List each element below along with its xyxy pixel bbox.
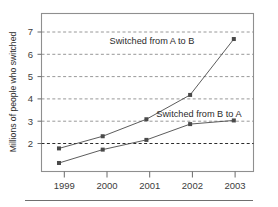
data-point-marker — [144, 138, 148, 142]
data-point-marker — [144, 117, 148, 121]
ytick-label-6: 6 — [28, 49, 33, 60]
data-point-marker — [101, 148, 105, 152]
xtick-label-2002: 2002 — [182, 180, 203, 191]
xtick-label-2003: 2003 — [225, 180, 246, 191]
data-point-marker — [57, 161, 61, 165]
ytick-label-4: 4 — [28, 93, 33, 104]
xtick-label-2000: 2000 — [96, 180, 117, 191]
data-point-marker — [232, 118, 236, 122]
annotation-b-to-a: Switched from B to A — [156, 109, 242, 119]
xtick-label-2001: 2001 — [139, 180, 160, 191]
data-point-marker — [101, 134, 105, 138]
y-axis-title: Millions of people who switched — [8, 32, 18, 153]
ytick-label-2: 2 — [28, 138, 33, 149]
chart-figure: 7 6 5 4 3 2 Millions of people who switc… — [0, 0, 278, 207]
ytick-label-5: 5 — [28, 71, 33, 82]
xtick-label-1999: 1999 — [54, 180, 75, 191]
ytick-label-7: 7 — [28, 26, 33, 37]
data-point-marker — [232, 37, 236, 41]
annotation-a-to-b: Switched from A to B — [110, 36, 195, 46]
data-point-marker — [188, 122, 192, 126]
line-chart-svg: 7 6 5 4 3 2 Millions of people who switc… — [0, 0, 278, 207]
data-point-marker — [188, 93, 192, 97]
data-point-marker — [57, 146, 61, 150]
ytick-label-3: 3 — [28, 116, 33, 127]
